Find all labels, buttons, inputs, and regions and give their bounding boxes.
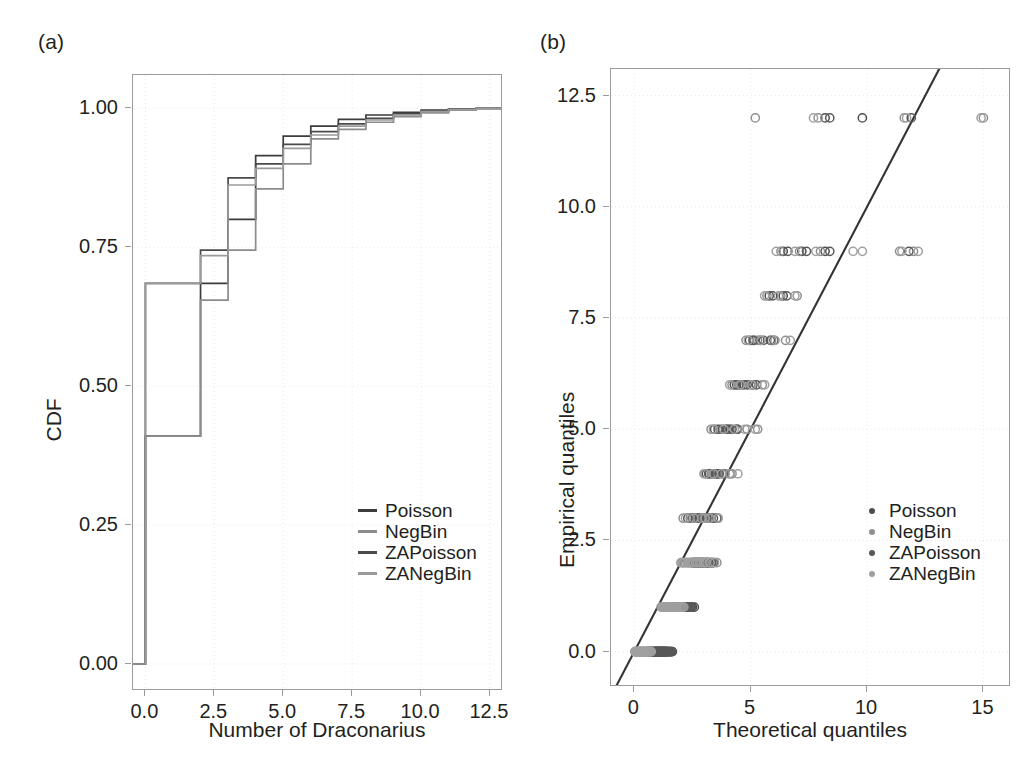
x-tick-mark	[420, 690, 421, 696]
legend-item-negbin[interactable]: NegBin	[862, 521, 981, 542]
y-tick-mark	[603, 317, 609, 318]
x-tick-mark	[282, 690, 283, 696]
x-tick-mark	[213, 690, 214, 696]
legend-line-swatch-icon	[358, 509, 377, 512]
panel-a-legend: PoissonNegBinZAPoissonZANegBin	[358, 500, 477, 584]
y-tick-label: 10.0	[520, 194, 596, 217]
panel-b-legend: PoissonNegBinZAPoissonZANegBin	[862, 500, 981, 584]
panel-b-plot-area	[610, 68, 1010, 686]
y-tick-mark	[125, 663, 131, 664]
legend-label: ZANegBin	[889, 563, 976, 584]
legend-label: ZAPoisson	[385, 542, 477, 563]
y-tick-label: 12.5	[520, 83, 596, 106]
legend-label: Poisson	[889, 500, 957, 521]
qq-scatter-plot	[611, 69, 1009, 685]
panel-a-tag: (a)	[38, 30, 64, 54]
y-tick-label: 0.75	[42, 235, 118, 258]
y-tick-label: 0.25	[42, 513, 118, 536]
reference-line	[611, 69, 1009, 685]
y-tick-label: 1.00	[42, 96, 118, 119]
y-tick-mark	[603, 206, 609, 207]
cdf-step-plot	[133, 75, 501, 689]
legend-label: ZANegBin	[385, 563, 472, 584]
legend-label: ZAPoisson	[889, 542, 981, 563]
y-tick-mark	[603, 539, 609, 540]
x-tick-mark	[982, 686, 983, 692]
legend-item-poisson[interactable]: Poisson	[358, 500, 477, 521]
legend-dot-swatch-icon	[862, 571, 881, 577]
legend-item-zapoisson[interactable]: ZAPoisson	[358, 542, 477, 563]
x-tick-mark	[489, 690, 490, 696]
y-tick-mark	[603, 651, 609, 652]
y-tick-mark	[125, 107, 131, 108]
y-tick-label: 0.50	[42, 374, 118, 397]
y-tick-label: 0.00	[42, 651, 118, 674]
legend-label: NegBin	[889, 521, 951, 542]
x-tick-mark	[351, 690, 352, 696]
y-tick-mark	[603, 428, 609, 429]
panel-a-plot-area	[132, 74, 502, 690]
legend-dot-swatch-icon	[862, 550, 881, 556]
legend-item-zanegbin[interactable]: ZANegBin	[358, 563, 477, 584]
x-tick-mark	[633, 686, 634, 692]
figure-root: (a) 0.02.55.07.510.012.50.000.250.500.75…	[0, 0, 1035, 773]
y-tick-mark	[125, 246, 131, 247]
y-tick-label: 0.0	[520, 639, 596, 662]
legend-item-poisson[interactable]: Poisson	[862, 500, 981, 521]
panel-a-ylabel: CDF	[42, 398, 66, 441]
x-tick-label: 5	[744, 696, 755, 719]
y-tick-mark	[125, 524, 131, 525]
panel-b-xlabel: Theoretical quantiles	[610, 718, 1010, 742]
legend-label: NegBin	[385, 521, 447, 542]
legend-line-swatch-icon	[358, 551, 377, 554]
legend-item-zanegbin[interactable]: ZANegBin	[862, 563, 981, 584]
panel-a-xlabel: Number of Draconarius	[132, 718, 502, 742]
x-tick-mark	[750, 686, 751, 692]
x-tick-mark	[144, 690, 145, 696]
legend-dot-swatch-icon	[862, 508, 881, 514]
legend-label: Poisson	[385, 500, 453, 521]
x-tick-mark	[866, 686, 867, 692]
x-tick-label: 0	[628, 696, 639, 719]
y-tick-mark	[603, 95, 609, 96]
x-tick-label: 10	[855, 696, 877, 719]
legend-item-zapoisson[interactable]: ZAPoisson	[862, 542, 981, 563]
x-tick-label: 15	[971, 696, 993, 719]
legend-line-swatch-icon	[358, 572, 377, 575]
panel-b-ylabel: Empirical quantiles	[555, 392, 579, 568]
y-tick-label: 7.5	[520, 306, 596, 329]
legend-dot-swatch-icon	[862, 529, 881, 535]
legend-item-negbin[interactable]: NegBin	[358, 521, 477, 542]
legend-line-swatch-icon	[358, 530, 377, 533]
panel-b-tag: (b)	[540, 30, 566, 54]
y-tick-mark	[125, 385, 131, 386]
